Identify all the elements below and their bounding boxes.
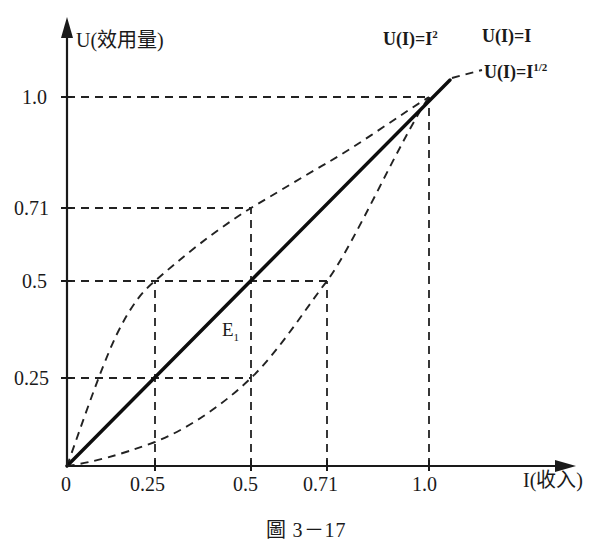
figure-caption: 圖 3－17 xyxy=(0,514,612,543)
x-tick-label-0.5: 0.5 xyxy=(233,474,258,494)
curve-label-sqrt-base: U(I)=I xyxy=(484,62,533,82)
y-tick-label-0.25: 0.25 xyxy=(14,368,49,388)
curve-label-square-base: U(I)=I xyxy=(383,29,432,49)
curve-label-square: U(I)=I2 xyxy=(383,29,438,48)
x-axis-title: I(收入) xyxy=(523,470,583,490)
x-tick-label-0: 0 xyxy=(61,474,71,494)
axes xyxy=(61,17,576,472)
curve-linear xyxy=(67,80,450,466)
y-axis-arrowhead xyxy=(61,17,73,38)
curve-label-sqrt-exponent: 1/2 xyxy=(533,61,547,73)
leader-line-sqrt xyxy=(452,70,482,78)
figure-container: 1.0 0.71 0.5 0.25 0 0.25 0.5 0.71 1.0 U(… xyxy=(0,0,612,551)
y-tick-label-1.0: 1.0 xyxy=(22,87,47,107)
x-tick-label-0.71: 0.71 xyxy=(303,474,338,494)
x-tick-label-1.0: 1.0 xyxy=(412,474,437,494)
y-tick-label-0.5: 0.5 xyxy=(22,271,47,291)
utility-function-plot xyxy=(0,0,612,551)
y-tick-label-0.71: 0.71 xyxy=(14,198,49,218)
y-axis-title: U(效用量) xyxy=(76,30,164,50)
x-tick-label-0.25: 0.25 xyxy=(130,474,165,494)
curve-label-sqrt: U(I)=I1/2 xyxy=(484,62,547,81)
point-label-e1-base: E xyxy=(222,319,234,340)
point-label-e1-subscript: 1 xyxy=(234,331,240,343)
curve-label-linear: U(I)=I xyxy=(482,27,531,45)
point-label-e1: E1 xyxy=(222,320,239,343)
curve-label-square-exponent: 2 xyxy=(432,28,438,40)
